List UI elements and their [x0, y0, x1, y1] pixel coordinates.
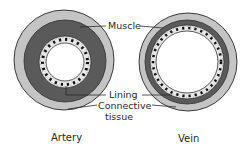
connective-tissue-label-line2: tissue [105, 111, 133, 122]
vein-caption: Vein [178, 133, 199, 144]
vein-cross-section [139, 13, 237, 111]
lining-label: Lining [109, 89, 138, 100]
artery-caption: Artery [51, 132, 82, 143]
connective-tissue-label-line1: Connective [98, 100, 152, 111]
artery-lumen [46, 43, 84, 81]
muscle-label: Muscle [108, 20, 141, 31]
blood-vessel-diagram: Muscle Lining Connective tissue Artery V… [0, 0, 250, 156]
vein-lumen [156, 31, 218, 93]
